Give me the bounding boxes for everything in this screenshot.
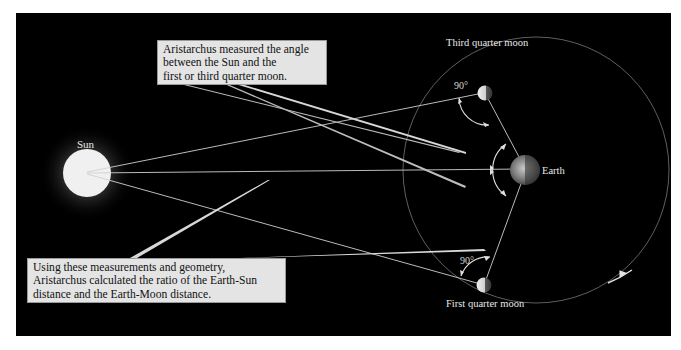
bottom-callout: Using these measurements and geometry, A…: [27, 258, 286, 303]
bottom-angle-label: 90°: [460, 256, 474, 266]
first-quarter-moon-disc: [477, 278, 492, 293]
bottom-callout-line: Using these measurements and geometry,: [33, 261, 280, 274]
first-quarter-moon-label: First quarter moon: [446, 299, 524, 310]
top-angle-label: 90°: [454, 81, 468, 91]
earth-label: Earth: [542, 166, 565, 177]
third-quarter-moon-label: Third quarter moon: [446, 38, 528, 49]
bottom-callout-line: Aristarchus calculated the ratio of the …: [33, 274, 280, 287]
top-callout-line: first or third quarter moon.: [163, 70, 321, 83]
earth: [510, 155, 540, 185]
top-callout-line: Aristarchus measured the angle: [163, 43, 321, 56]
third-quarter-moon-disc: [478, 86, 493, 101]
diagram-panel: Sun Earth Third quarter moon First quart…: [16, 13, 671, 336]
callout-pointers: [130, 83, 486, 258]
top-callout: Aristarchus measured the angle between t…: [157, 40, 327, 85]
bottom-callout-line: distance and the Earth-Moon distance.: [33, 288, 280, 301]
top-callout-line: between the Sun and the: [163, 56, 321, 69]
sun-label: Sun: [77, 139, 94, 150]
